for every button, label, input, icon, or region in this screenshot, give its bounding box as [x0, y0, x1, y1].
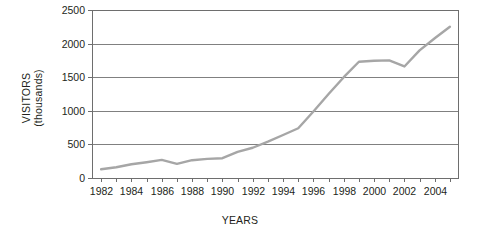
- x-tick-label-1986: 1986: [151, 185, 175, 197]
- x-tick-label-2002: 2002: [393, 185, 417, 197]
- y-tick-label-1000: 1000: [62, 105, 86, 117]
- y-tick-label-1500: 1500: [62, 71, 86, 83]
- x-axis-title: YEARS: [222, 214, 259, 226]
- x-tick-label-1990: 1990: [211, 185, 235, 197]
- y-axis-title-line2: (thousands): [32, 69, 44, 127]
- y-tick-label-2000: 2000: [62, 38, 86, 50]
- y-axis-title-line1: VISITORS: [20, 73, 32, 123]
- x-tick-label-1988: 1988: [181, 185, 205, 197]
- plot-area-background: [92, 10, 459, 178]
- x-tick-label-1992: 1992: [242, 185, 266, 197]
- chart-canvas: 05001000150020002500 1982198419861988199…: [0, 0, 482, 236]
- x-axis-ticks-group: 1982198419861988199019921994199619982000…: [90, 178, 451, 197]
- x-tick-label-2004: 2004: [424, 185, 448, 197]
- y-axis-ticks-group: 05001000150020002500: [62, 4, 92, 184]
- y-tick-label-0: 0: [79, 172, 85, 184]
- y-tick-label-500: 500: [67, 138, 85, 150]
- x-tick-label-1996: 1996: [302, 185, 326, 197]
- x-tick-label-1994: 1994: [272, 185, 296, 197]
- x-tick-label-2000: 2000: [363, 185, 387, 197]
- visitors-line-chart: 05001000150020002500 1982198419861988199…: [0, 0, 482, 236]
- x-tick-label-1984: 1984: [120, 185, 144, 197]
- x-tick-label-1998: 1998: [333, 185, 357, 197]
- y-tick-label-2500: 2500: [62, 4, 86, 16]
- x-tick-label-1982: 1982: [90, 185, 114, 197]
